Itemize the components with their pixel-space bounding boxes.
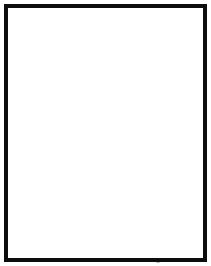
figure-border-frame xyxy=(4,4,207,262)
figure-root: N xyxy=(0,0,211,266)
